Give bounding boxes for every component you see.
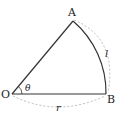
sector-diagram: A B O θ l r xyxy=(0,0,119,113)
angle-marker xyxy=(18,86,22,94)
arc-ab xyxy=(73,21,106,94)
point-label-a: A xyxy=(67,6,77,19)
point-label-o: O xyxy=(1,88,10,101)
angle-label: θ xyxy=(25,83,31,93)
radius-label: r xyxy=(56,102,62,113)
arc-length-label: l xyxy=(105,48,108,59)
point-label-b: B xyxy=(107,93,115,106)
segment-oa xyxy=(12,21,73,94)
